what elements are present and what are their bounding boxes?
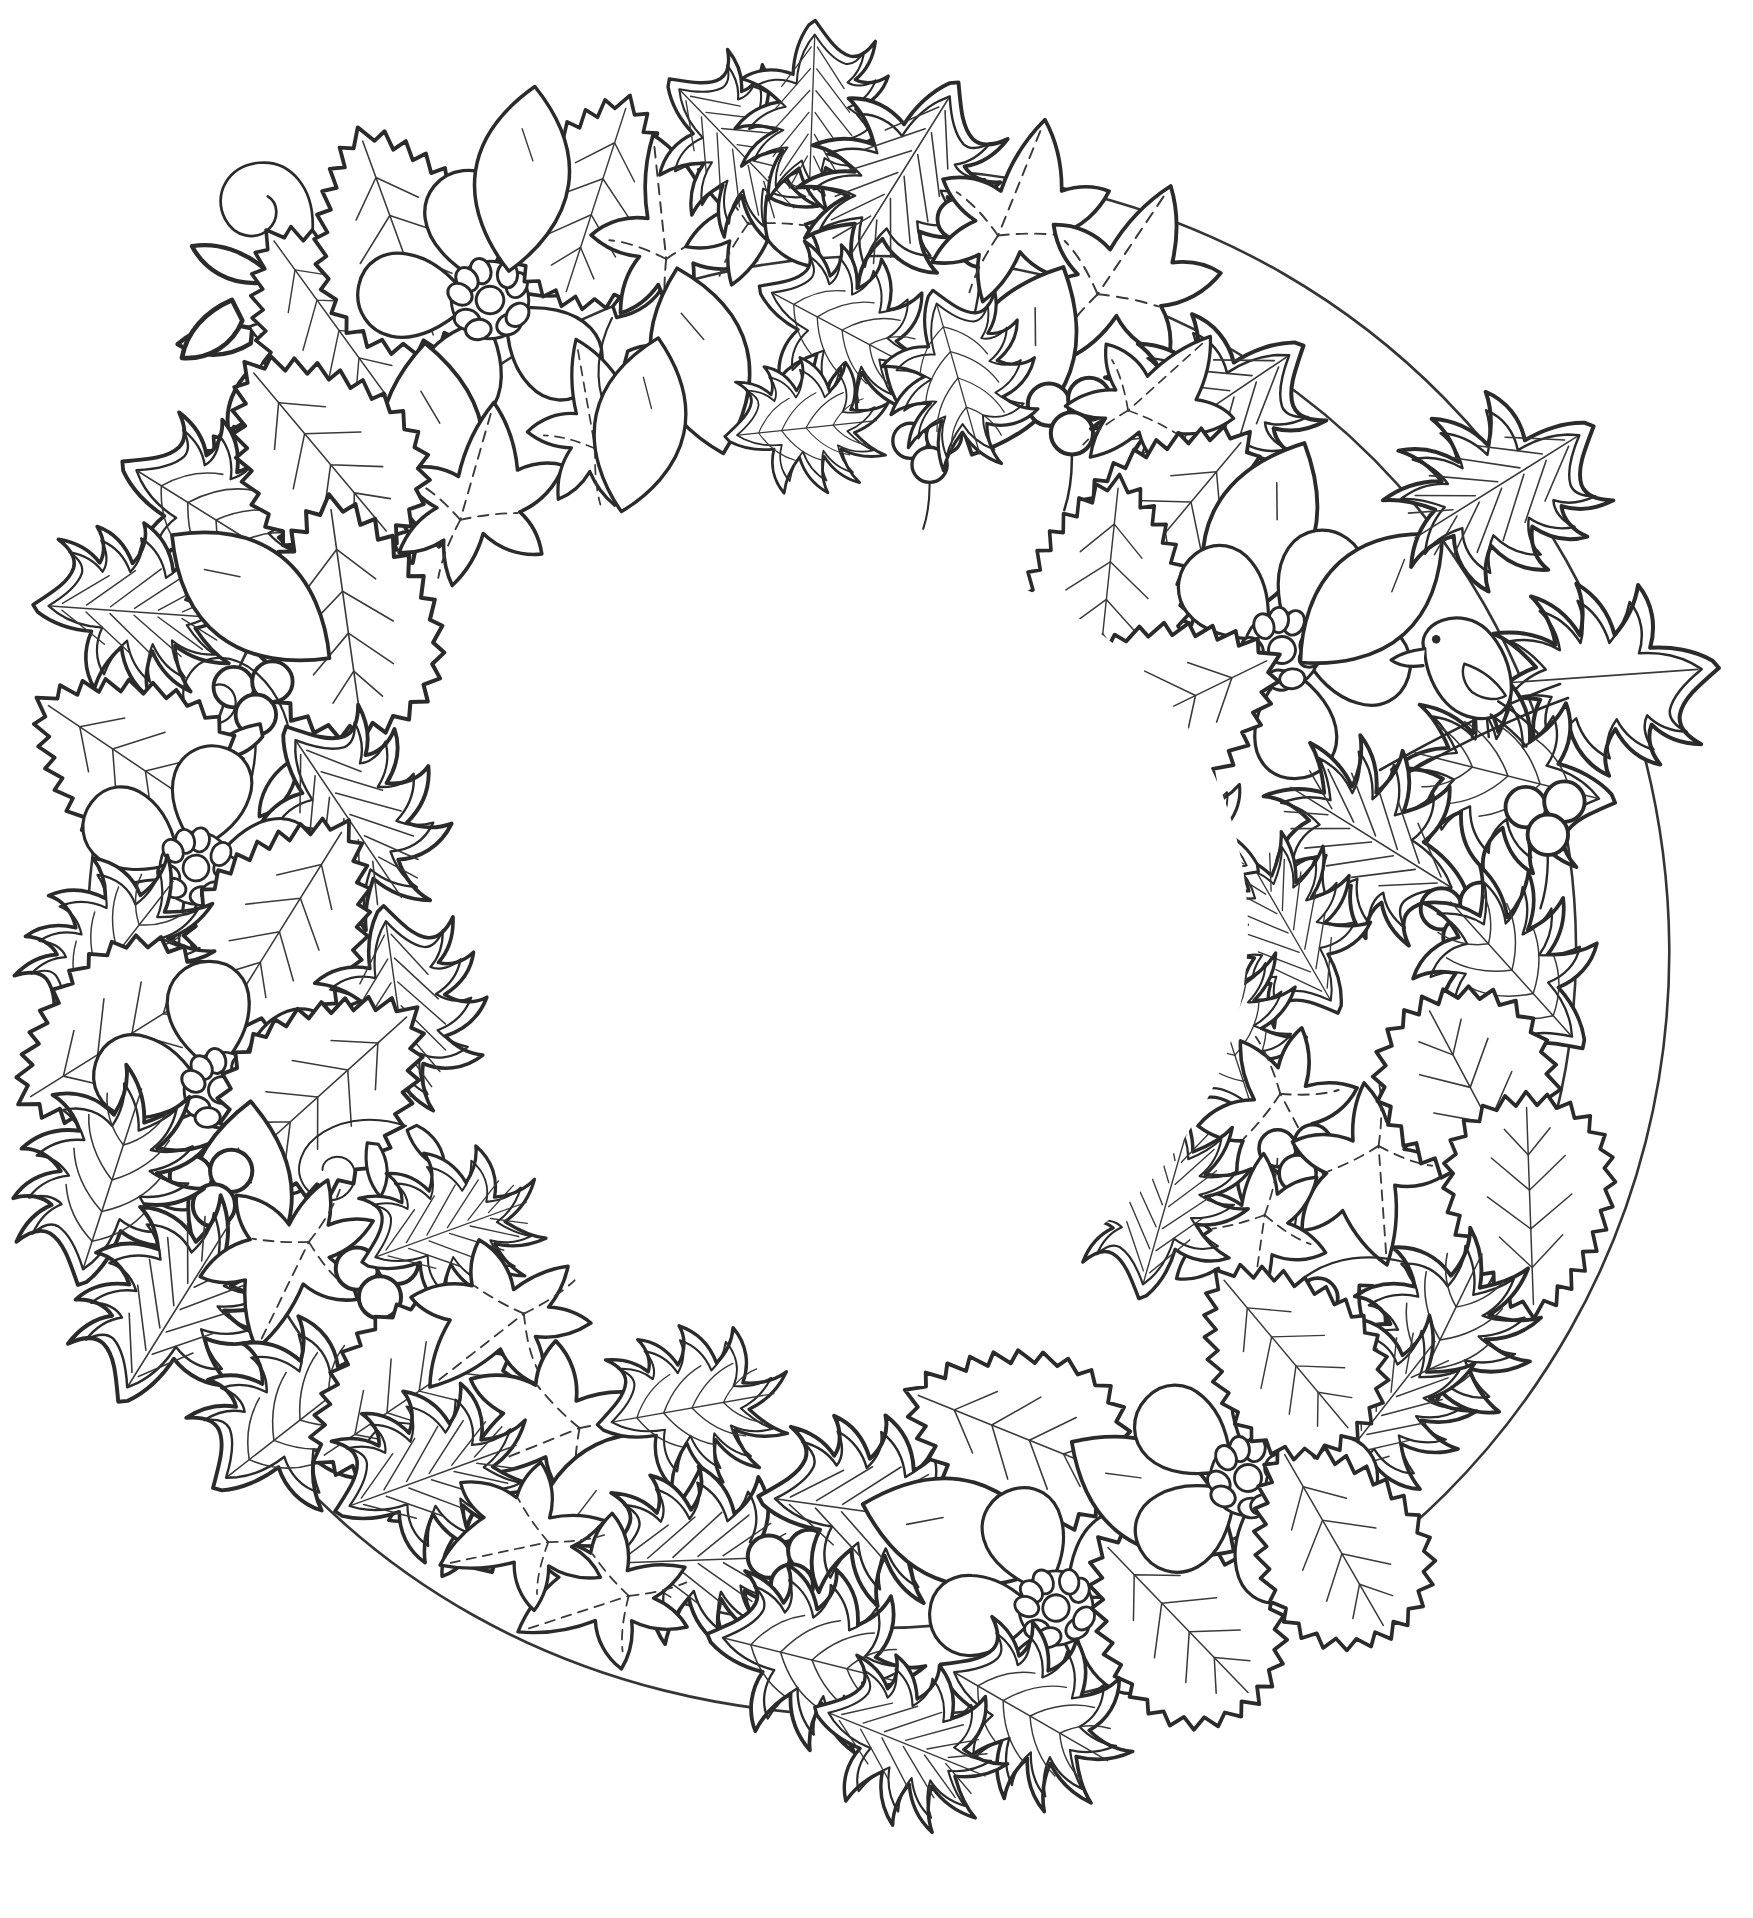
wreath-illustration: Christmas Wreath Coloring Page [0,0,1753,1918]
wreath-center-blank [504,558,1248,1302]
coloring-page-canvas: Christmas Wreath Coloring Page [0,0,1753,1918]
